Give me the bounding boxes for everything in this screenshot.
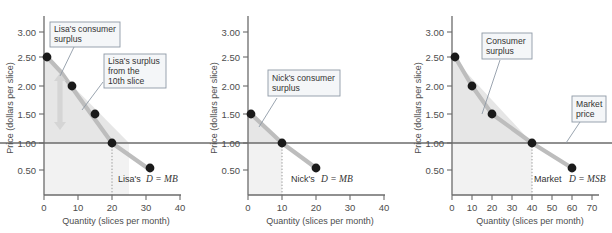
- x-ticks: [452, 195, 592, 200]
- data-point: [146, 164, 155, 173]
- y-tick-label: 1.50: [18, 109, 37, 120]
- callout-line: price: [576, 109, 595, 119]
- panel-nick: 3.00 2.50 2.00 1.50 1.00 0.50 0 10 20 30…: [204, 0, 408, 233]
- y-tick-label: 2.00: [18, 81, 37, 92]
- callout-nick-consumer-surplus: Nick's consumer surplus: [268, 70, 340, 96]
- callout-leader-line: [259, 98, 277, 127]
- curve-label-prefix: Market: [534, 174, 562, 184]
- x-tick-label: 40: [527, 202, 538, 213]
- expenditure-area: [452, 143, 532, 195]
- y-ticks: [39, 32, 44, 170]
- x-axis-title: Quantity (slices per month): [62, 216, 170, 226]
- y-tick-label: 2.00: [222, 81, 241, 92]
- callout-leader-line: [60, 47, 74, 76]
- x-tick-label: 10: [73, 202, 84, 213]
- callout-lisa-consumer-surplus: Lisa's consumer surplus: [50, 22, 120, 47]
- callout-line: 10th slice: [108, 76, 145, 86]
- y-tick-label: 1.00: [18, 138, 37, 149]
- data-point: [488, 110, 497, 119]
- y-tick-label: 0.50: [426, 165, 445, 176]
- data-point: [43, 53, 52, 62]
- data-point: [247, 110, 256, 119]
- y-tick-label: 2.50: [18, 52, 37, 63]
- x-tick-label: 20: [107, 202, 118, 213]
- callout-consumer-surplus: Consumer surplus: [482, 33, 532, 59]
- x-tick-label: 0: [41, 202, 46, 213]
- curve-label-italic: D = MB: [145, 174, 178, 184]
- x-tick-label: 0: [245, 202, 250, 213]
- y-tick-label: 1.00: [222, 138, 241, 149]
- y-axis-title: Price (dollars per slice): [209, 62, 219, 154]
- y-tick-label: 3.00: [426, 27, 445, 38]
- x-tick-label: 40: [175, 202, 186, 213]
- callout-line: surplus: [272, 83, 300, 93]
- data-point: [451, 53, 460, 62]
- x-tick-label: 70: [587, 202, 598, 213]
- callout-line: Nick's consumer: [272, 73, 335, 83]
- x-tick-label: 30: [345, 202, 356, 213]
- x-ticks: [248, 195, 384, 200]
- data-point: [468, 82, 477, 91]
- curve-label-italic: D = MB: [320, 174, 353, 184]
- x-tick-label: 60: [567, 202, 578, 213]
- y-tick-label: 0.50: [222, 165, 241, 176]
- y-tick-label: 0.50: [18, 165, 37, 176]
- data-point: [312, 164, 321, 173]
- panel-market: 3.00 2.50 2.00 1.50 1.00 0.50 0 10 20 30…: [408, 0, 612, 233]
- data-point: [528, 139, 537, 148]
- callout-line: Consumer: [486, 36, 526, 46]
- curve-label-prefix: Nick's: [291, 174, 315, 184]
- callout-market-price: Market price: [572, 96, 606, 122]
- callout-line: surplus: [486, 46, 514, 56]
- y-tick-label: 1.50: [222, 109, 241, 120]
- y-tick-label: 2.00: [426, 81, 445, 92]
- x-tick-label: 10: [467, 202, 478, 213]
- consumer-surplus-figure: 3.00 2.50 2.00 1.50 1.00 0.50 0 10 20 30…: [0, 0, 612, 233]
- callout-leader-line: [566, 122, 580, 143]
- callout-line: from the: [108, 66, 140, 76]
- y-ticks: [243, 32, 248, 170]
- y-tick-label: 3.00: [222, 27, 241, 38]
- data-point: [568, 164, 577, 173]
- y-tick-label: 2.50: [426, 52, 445, 63]
- x-ticks: [44, 195, 180, 200]
- callout-line: Lisa's surplus: [108, 56, 160, 66]
- y-axis-title: Price (dollars per slice): [413, 62, 423, 154]
- curve-label-prefix: Lisa's: [118, 174, 141, 184]
- data-point: [68, 82, 77, 91]
- callout-line: surplus: [54, 34, 82, 44]
- x-tick-label: 30: [141, 202, 152, 213]
- callout-leader-line: [82, 82, 103, 110]
- x-tick-label: 30: [507, 202, 518, 213]
- y-tick-label: 1.00: [426, 138, 445, 149]
- x-tick-label: 50: [547, 202, 558, 213]
- x-axis-title: Quantity (slices per month): [476, 216, 584, 226]
- expenditure-area: [44, 143, 129, 195]
- y-ticks: [447, 32, 452, 170]
- curve-label-nick: Nick's D = MB: [291, 174, 353, 184]
- x-tick-label: 0: [449, 202, 454, 213]
- data-point: [108, 139, 117, 148]
- y-tick-label: 2.50: [222, 52, 241, 63]
- curve-label-lisa: Lisa's D = MB: [118, 174, 178, 184]
- expenditure-area: [248, 143, 282, 195]
- y-tick-label: 3.00: [18, 27, 37, 38]
- callout-line: Lisa's consumer: [54, 24, 116, 34]
- x-axis-title: Quantity (slices per month): [266, 216, 374, 226]
- data-point: [278, 139, 287, 148]
- callout-line: Market: [576, 99, 603, 109]
- curve-label-market: Market D = MSB: [534, 174, 606, 184]
- x-tick-label: 20: [311, 202, 322, 213]
- data-point: [91, 110, 100, 119]
- y-axis-title: Price (dollars per slice): [5, 62, 15, 154]
- x-tick-label: 10: [277, 202, 288, 213]
- panel-lisa: 3.00 2.50 2.00 1.50 1.00 0.50 0 10 20 30…: [0, 0, 204, 233]
- curve-label-italic: D = MSB: [568, 174, 606, 184]
- callout-lisa-surplus-10th-slice: Lisa's surplus from the 10th slice: [104, 54, 166, 88]
- y-tick-label: 1.50: [426, 109, 445, 120]
- x-tick-label: 20: [487, 202, 498, 213]
- x-tick-label: 40: [379, 202, 390, 213]
